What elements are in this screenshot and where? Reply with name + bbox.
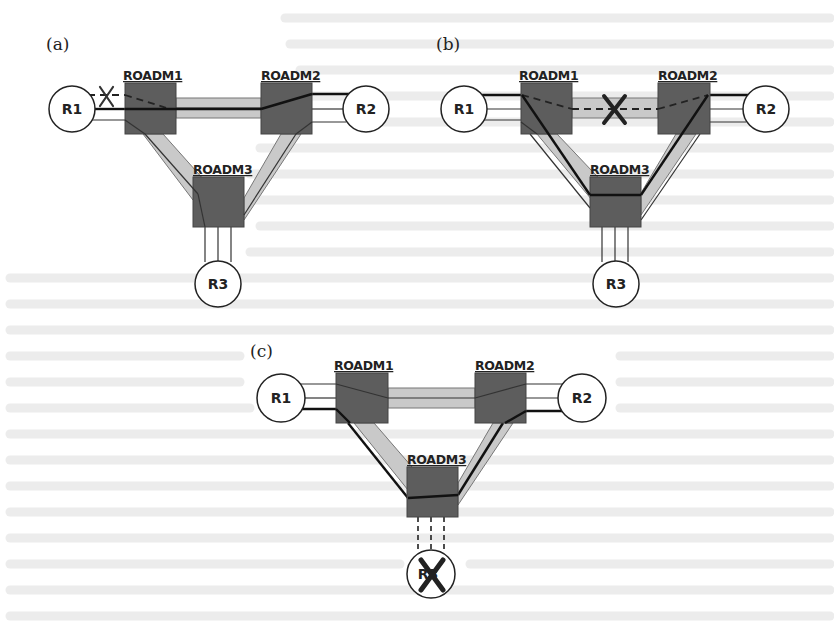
links-r1-roadm1 xyxy=(482,95,521,120)
roadm1-label: ROADM1 xyxy=(334,358,393,373)
links-r3-roadm3 xyxy=(602,227,628,262)
router-r1-label: R1 xyxy=(454,101,475,117)
roadm1-label: ROADM1 xyxy=(123,68,182,83)
router-r3: R3 xyxy=(593,261,639,307)
roadm3-box xyxy=(407,467,458,517)
router-r2: R2 xyxy=(343,86,389,132)
roadm2-box xyxy=(658,83,710,134)
roadm3-label: ROADM3 xyxy=(407,452,466,467)
fiber-roadm2-roadm3 xyxy=(641,134,700,220)
router-r2: R2 xyxy=(743,86,789,132)
router-r2-label: R2 xyxy=(756,101,777,117)
panel-a: (a) xyxy=(46,34,389,307)
panel-label-a: (a) xyxy=(46,34,69,54)
roadm1-box xyxy=(521,83,572,134)
panel-label-b: (b) xyxy=(436,34,460,54)
router-r3: R3 xyxy=(195,261,241,307)
router-r1: R1 xyxy=(441,86,487,132)
panel-c: (c) xyxy=(250,341,606,598)
failure-x-icon xyxy=(100,87,113,106)
router-r1: R1 xyxy=(257,374,305,422)
router-r2: R2 xyxy=(558,374,606,422)
panel-label-c: (c) xyxy=(250,341,273,361)
roadm-network-figure: (a) xyxy=(0,0,834,633)
fiber-roadm2-roadm3 xyxy=(244,134,301,220)
links-r3-roadm3-failed xyxy=(418,517,444,552)
roadm2-box xyxy=(261,83,312,134)
router-r1-label: R1 xyxy=(271,390,292,406)
panel-b: (b) xyxy=(436,34,789,307)
router-r3-label: R3 xyxy=(208,276,229,292)
router-r3-label: R3 xyxy=(606,276,627,292)
links-r3-roadm3 xyxy=(205,227,231,262)
router-r1-label: R1 xyxy=(62,101,83,117)
roadm2-label: ROADM2 xyxy=(261,68,320,83)
roadm3-box xyxy=(590,177,641,227)
roadm3-label: ROADM3 xyxy=(590,162,649,177)
roadm2-label: ROADM2 xyxy=(475,358,534,373)
router-r1: R1 xyxy=(49,86,95,132)
roadm2-label: ROADM2 xyxy=(658,68,717,83)
roadm1-label: ROADM1 xyxy=(519,68,578,83)
roadm3-box xyxy=(193,177,244,227)
router-r2-label: R2 xyxy=(356,101,377,117)
roadm3-label: ROADM3 xyxy=(193,162,252,177)
router-r2-label: R2 xyxy=(572,390,593,406)
router-r3-failed: R3 xyxy=(407,550,455,598)
